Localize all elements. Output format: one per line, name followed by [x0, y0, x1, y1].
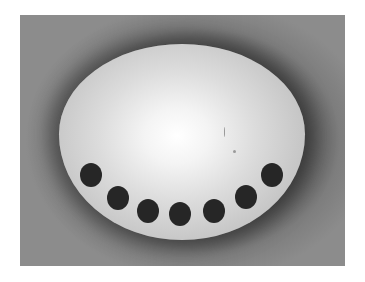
- speck-mark: [224, 127, 225, 137]
- photo-panel: [20, 15, 345, 266]
- dark-dot: [169, 202, 191, 226]
- dark-dot: [80, 163, 102, 187]
- dark-dot: [235, 185, 257, 209]
- dark-dot: [261, 163, 283, 187]
- speck-mark: [233, 150, 236, 153]
- dark-dot: [137, 199, 159, 223]
- dark-dot: [203, 199, 225, 223]
- dark-dot: [107, 186, 129, 210]
